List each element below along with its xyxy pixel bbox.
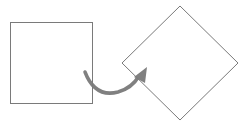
curved-arrow-icon (85, 67, 147, 93)
diagram-canvas (0, 0, 252, 130)
rotated-square (122, 6, 238, 120)
rotation-diagram (0, 0, 252, 130)
original-square (11, 23, 93, 104)
